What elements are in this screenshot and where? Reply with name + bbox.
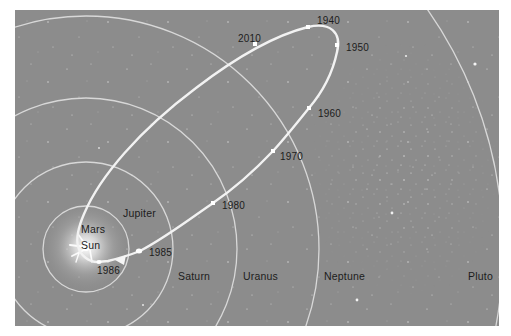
- year-label-1970: 1970: [280, 152, 303, 162]
- marker-1980: [211, 201, 215, 205]
- solar-system-diagram: Mars Sun Jupiter Saturn Uranus Neptune P…: [15, 10, 499, 326]
- saturn-label: Saturn: [178, 271, 210, 282]
- marker-1950: [335, 43, 339, 47]
- jupiter-label: Jupiter: [123, 208, 156, 219]
- year-label-1980: 1980: [222, 201, 245, 211]
- star-cluster: [280, 30, 499, 326]
- sun-label: Sun: [81, 240, 100, 251]
- mars-label: Mars: [81, 224, 105, 235]
- year-label-1960: 1960: [318, 109, 341, 119]
- year-label-2010: 2010: [238, 34, 261, 44]
- marker-1986: [96, 260, 101, 264]
- year-label-1940: 1940: [317, 16, 340, 26]
- uranus-label: Uranus: [243, 271, 278, 282]
- marker-1940: [306, 25, 310, 29]
- year-label-1986: 1986: [97, 266, 120, 276]
- marker-1960: [307, 106, 311, 110]
- marker-1985: [136, 249, 142, 254]
- year-label-1985: 1985: [149, 248, 172, 258]
- neptune-label: Neptune: [324, 271, 365, 282]
- marker-1970: [271, 149, 275, 153]
- pluto-label: Pluto: [468, 271, 493, 282]
- year-label-1950: 1950: [346, 43, 369, 53]
